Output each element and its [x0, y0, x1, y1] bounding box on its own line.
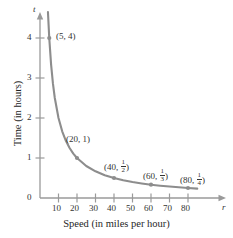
x-tick-label-60: 60: [144, 204, 153, 213]
point-label-20-1: (20, 1): [66, 135, 90, 144]
data-point-marker: [75, 156, 79, 160]
y-tick-label-3: 3: [27, 73, 32, 82]
y-tick-label-1: 1: [27, 153, 32, 162]
y-tick-label-4: 4: [27, 33, 32, 42]
point-label-80-quarter: (80, 14): [180, 172, 205, 188]
x-axis-title: Speed (in miles per hour): [0, 218, 233, 229]
x-tick-label-20: 20: [70, 204, 79, 213]
x-tick-label-30: 30: [89, 204, 98, 213]
point-label-40-open: (40,: [104, 162, 121, 172]
point-label-80-open: (80,: [180, 175, 197, 185]
plot-canvas: [0, 0, 233, 238]
point-label-40-half: (40, 12): [104, 159, 129, 175]
point-label-60-third: (60, 13): [143, 168, 168, 184]
x-tick-label-40: 40: [107, 204, 116, 213]
x-tick-label-70: 70: [163, 204, 172, 213]
chart-figure: 4 3 2 1 0 10 20 30 40 50 60 70 80 t r Ti…: [0, 0, 233, 238]
y-axis: [37, 12, 43, 198]
data-point-marker: [47, 36, 51, 40]
point-label-60-close: ): [165, 171, 168, 181]
y-tick-label-0: 0: [27, 193, 32, 202]
point-label-80-close: ): [202, 175, 205, 185]
x-tick-label-50: 50: [126, 204, 135, 213]
point-label-5-4: (5, 4): [56, 32, 76, 41]
y-axis-title: Time (in hours): [12, 54, 23, 174]
x-axis-variable-label: r: [222, 203, 226, 212]
point-label-40-close: ): [126, 162, 129, 172]
y-tick-label-2: 2: [27, 113, 32, 122]
data-point-marker: [112, 176, 116, 180]
x-tick-label-10: 10: [52, 204, 61, 213]
y-axis-variable-label: t: [33, 5, 36, 14]
point-label-60-open: (60,: [143, 171, 160, 181]
x-tick-label-80: 80: [181, 204, 190, 213]
